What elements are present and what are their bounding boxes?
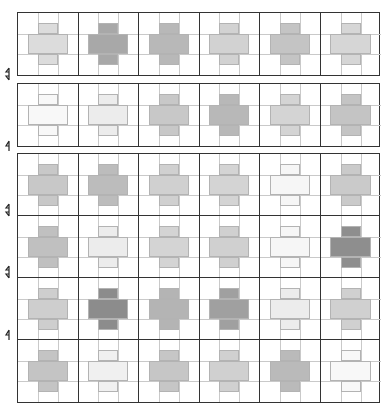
cross-bottom-tab: [159, 257, 179, 267]
cross-top-tab: [341, 164, 361, 174]
block-3: [17, 153, 380, 403]
cross-top-tab: [280, 23, 300, 33]
cross-bottom-tab: [98, 257, 118, 267]
cross-top-tab: [280, 164, 300, 174]
grid-row: [18, 340, 379, 402]
cross-center-bar: [88, 105, 128, 126]
cross-top-tab: [341, 288, 361, 298]
grid-cell: [321, 340, 382, 402]
cross-top-tab: [280, 350, 300, 360]
cross-top-tab: [341, 226, 361, 236]
cross-bottom-tab: [159, 381, 179, 391]
cross-top-tab: [98, 23, 118, 33]
cross-top-tab: [280, 288, 300, 298]
cross-top-tab: [219, 94, 239, 104]
cross-bottom-tab: [280, 381, 300, 391]
arrow-icon: [4, 327, 12, 341]
cross-bottom-tab: [280, 54, 300, 64]
cross-center-bar: [28, 237, 68, 258]
cross-bottom-tab: [98, 319, 118, 329]
cross-center-bar: [149, 34, 189, 55]
cross-center-bar: [209, 237, 249, 258]
cross-center-bar: [149, 299, 189, 320]
cross-center-bar: [149, 361, 189, 382]
grid-cell: [79, 84, 140, 146]
cross-center-bar: [149, 105, 189, 126]
cross-center-bar: [270, 34, 310, 55]
cross-top-tab: [219, 288, 239, 298]
grid-cell: [18, 340, 79, 402]
cross-center-bar: [88, 34, 128, 55]
cross-bottom-tab: [38, 125, 58, 135]
cross-center-bar: [88, 237, 128, 258]
cross-top-tab: [38, 23, 58, 33]
grid-cell: [139, 84, 200, 146]
cross-top-tab: [38, 288, 58, 298]
cross-center-bar: [330, 237, 371, 258]
cross-top-tab: [341, 350, 361, 360]
cross-bottom-tab: [280, 319, 300, 329]
double-arrow-icon: [4, 265, 12, 279]
cross-top-tab: [341, 23, 361, 33]
cross-top-tab: [38, 164, 58, 174]
cross-top-tab: [219, 226, 239, 236]
cross-center-bar: [330, 175, 371, 196]
cross-center-bar: [209, 34, 249, 55]
cross-top-tab: [159, 164, 179, 174]
cross-center-bar: [209, 361, 249, 382]
grid-cell: [321, 13, 382, 75]
block-1: [17, 12, 380, 76]
grid-cell: [200, 154, 261, 216]
cross-bottom-tab: [219, 319, 239, 329]
cross-bottom-tab: [98, 381, 118, 391]
cross-center-bar: [88, 175, 128, 196]
cross-bottom-tab: [341, 319, 361, 329]
cross-bottom-tab: [38, 54, 58, 64]
grid-cell: [139, 278, 200, 340]
cross-top-tab: [98, 94, 118, 104]
grid-cell: [321, 216, 382, 278]
grid-cell: [200, 278, 261, 340]
cross-top-tab: [38, 350, 58, 360]
cross-top-tab: [219, 350, 239, 360]
cross-top-tab: [280, 226, 300, 236]
grid-cell: [321, 154, 382, 216]
cross-bottom-tab: [219, 195, 239, 205]
cross-top-tab: [159, 94, 179, 104]
cross-bottom-tab: [98, 54, 118, 64]
double-arrow-icon: [4, 203, 12, 217]
cross-bottom-tab: [159, 195, 179, 205]
grid-cell: [260, 278, 321, 340]
grid-cell: [79, 278, 140, 340]
cross-center-bar: [209, 299, 249, 320]
cross-bottom-tab: [280, 195, 300, 205]
grid-row: [18, 84, 379, 146]
cross-bottom-tab: [280, 125, 300, 135]
cross-bottom-tab: [159, 54, 179, 64]
cross-center-bar: [330, 105, 371, 126]
cross-top-tab: [159, 23, 179, 33]
cross-bottom-tab: [219, 125, 239, 135]
cross-center-bar: [270, 361, 310, 382]
cross-bottom-tab: [38, 319, 58, 329]
grid-row: [18, 216, 379, 278]
cross-top-tab: [38, 226, 58, 236]
cross-top-tab: [98, 164, 118, 174]
cross-center-bar: [209, 175, 249, 196]
arrow-icon: [4, 138, 12, 152]
cross-top-tab: [341, 94, 361, 104]
double-arrow-icon: [4, 67, 12, 81]
cross-center-bar: [88, 299, 128, 320]
block-2: [17, 83, 380, 147]
cross-center-bar: [270, 299, 310, 320]
grid-cell: [139, 154, 200, 216]
grid-cell: [79, 216, 140, 278]
cross-top-tab: [159, 350, 179, 360]
grid-cell: [18, 84, 79, 146]
cross-bottom-tab: [341, 125, 361, 135]
grid-cell: [79, 13, 140, 75]
cross-top-tab: [219, 23, 239, 33]
grid-cell: [200, 216, 261, 278]
grid-cell: [260, 340, 321, 402]
cross-top-tab: [38, 94, 58, 104]
